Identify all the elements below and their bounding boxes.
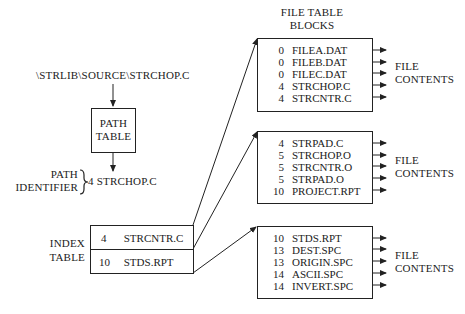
row-name: STRCHOP.C	[292, 80, 350, 92]
file-contents-label-2: CONTENTS	[395, 262, 454, 275]
row-name: PROJECT.RPT	[292, 185, 361, 197]
block-row: 4STRCNTR.C	[258, 92, 352, 105]
path-identifier-label-1: PATH	[46, 168, 78, 181]
index-table-row: 10 STDS.RPT	[99, 256, 174, 269]
row-name: STRPAD.O	[292, 173, 344, 185]
path-identifier-label-2: IDENTIFIER	[10, 181, 78, 194]
file-contents-label-1: FILE	[395, 60, 419, 73]
brace-icon	[80, 170, 88, 194]
file-contents-label-1: FILE	[395, 249, 419, 262]
path-table-label-1: PATH	[92, 117, 135, 130]
row-name: DEST.SPC	[292, 244, 341, 256]
row-name: STRPAD.C	[292, 137, 343, 149]
path-identifier-value: 4 STRCHOP.C	[88, 175, 157, 188]
row-name: FILEC.DAT	[292, 68, 347, 80]
row-name: ORIGIN.SPC	[292, 256, 353, 268]
row-name: STRCNTR.C	[124, 232, 184, 244]
file-contents-label-1: FILE	[395, 154, 419, 167]
file-table-block-2: 4STRPAD.C 5STRCHOP.O 5STRCNTR.O 5STRPAD.…	[257, 131, 373, 204]
file-table-block-3: 10STDS.RPT 13DEST.SPC 13ORIGIN.SPC 14ASC…	[257, 226, 373, 299]
row-name: ASCII.SPC	[292, 268, 343, 280]
row-num: 4	[258, 92, 284, 105]
file-table-title-2: BLOCKS	[272, 19, 352, 32]
file-contents-label-2: CONTENTS	[395, 73, 454, 86]
file-contents-label-2: CONTENTS	[395, 167, 454, 180]
row-name: STDS.RPT	[292, 232, 342, 244]
file-table-block-1: 0FILEA.DAT 0FILEB.DAT 0FILEC.DAT 4STRCHO…	[257, 38, 373, 112]
row-name: STDS.RPT	[124, 256, 174, 268]
index-table-box: 4 STRCNTR.C 10 STDS.RPT	[90, 225, 194, 274]
row-name: INVERT.SPC	[292, 280, 353, 292]
index-table-divider	[91, 249, 193, 250]
file-table-title-1: FILE TABLE	[272, 6, 352, 19]
index-table-label-2: TABLE	[47, 251, 85, 264]
row-num: 10	[99, 256, 115, 269]
block-row: 14INVERT.SPC	[258, 280, 353, 293]
block-row: 10PROJECT.RPT	[258, 185, 361, 198]
row-num: 4	[101, 232, 115, 245]
row-name: STRCNTR.C	[292, 92, 352, 104]
index-table-row: 4 STRCNTR.C	[101, 232, 183, 245]
path-table-label-2: TABLE	[92, 130, 135, 143]
row-name: FILEB.DAT	[292, 56, 347, 68]
row-name: STRCHOP.O	[292, 149, 351, 161]
row-num: 10	[258, 185, 284, 198]
row-num: 14	[258, 280, 284, 293]
path-table-box: PATH TABLE	[91, 108, 136, 153]
row-name: STRCNTR.O	[292, 161, 352, 173]
index-table-label-1: INDEX	[47, 237, 85, 250]
path-input-text: \STRLIB\SOURCE\STRCHOP.C	[36, 69, 190, 82]
row-name: FILEA.DAT	[292, 44, 347, 56]
